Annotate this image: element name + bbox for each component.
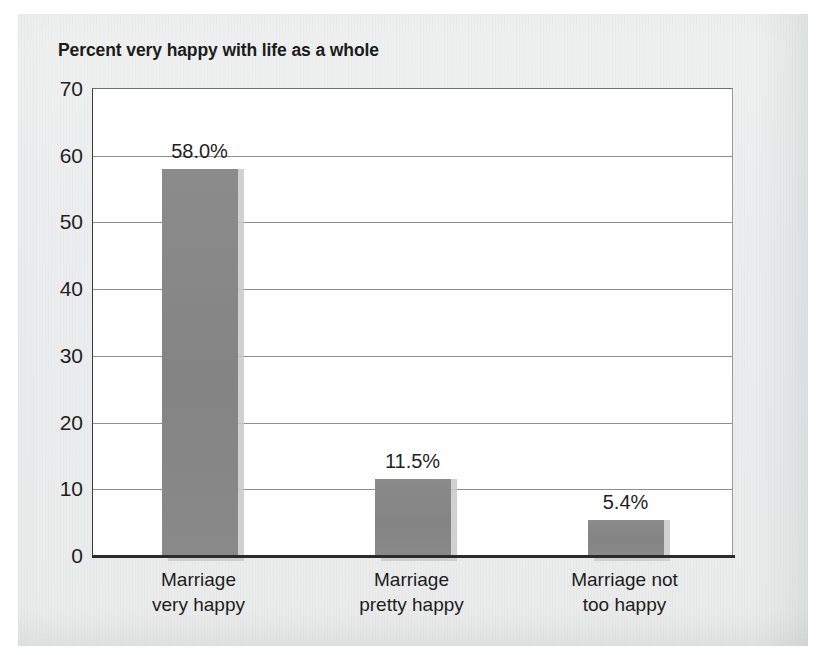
- bar: [588, 520, 664, 556]
- x-axis-category-label-line: Marriage not: [571, 567, 678, 592]
- x-axis-category-label-line: pretty happy: [359, 592, 464, 617]
- x-axis-category-label-line: Marriage: [152, 567, 245, 592]
- y-axis-tick-label: 70: [60, 77, 83, 101]
- y-axis-tick-label: 20: [60, 411, 83, 435]
- chart-title: Percent very happy with life as a whole: [58, 40, 379, 61]
- x-axis-category-label: Marriage nottoo happy: [571, 567, 678, 617]
- x-axis-line: [92, 555, 735, 558]
- x-axis-category-label-line: very happy: [152, 592, 245, 617]
- bar: [162, 169, 238, 556]
- bar-value-label: 11.5%: [385, 450, 440, 473]
- bar-group: 11.5%: [375, 479, 451, 556]
- y-axis-tick-label: 10: [60, 477, 83, 501]
- bar-group: 58.0%: [162, 169, 238, 556]
- x-axis-category-label-line: too happy: [571, 592, 678, 617]
- x-axis-category-label: Marriagepretty happy: [359, 567, 464, 617]
- x-axis-category-label: Marriagevery happy: [152, 567, 245, 617]
- plot-area: 010203040506070 58.0%11.5%5.4%: [92, 88, 733, 556]
- y-axis-tick-label: 30: [60, 344, 83, 368]
- x-axis-category-label-line: Marriage: [359, 567, 464, 592]
- bar-value-label: 58.0%: [171, 140, 228, 163]
- y-axis-tick-label: 0: [71, 544, 83, 568]
- chart-page: Percent very happy with life as a whole …: [0, 0, 821, 655]
- y-axis-tick-label: 40: [60, 277, 83, 301]
- bar-value-label: 5.4%: [603, 491, 649, 514]
- y-axis-tick-label: 60: [60, 144, 83, 168]
- bar-group: 5.4%: [588, 520, 664, 556]
- bar: [375, 479, 451, 556]
- y-axis-tick-label: 50: [60, 210, 83, 234]
